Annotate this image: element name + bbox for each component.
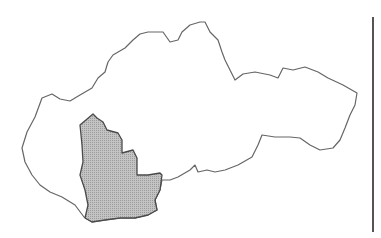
slovakia-map [0, 0, 381, 238]
country-outline [22, 22, 357, 222]
vertical-divider [372, 17, 374, 232]
